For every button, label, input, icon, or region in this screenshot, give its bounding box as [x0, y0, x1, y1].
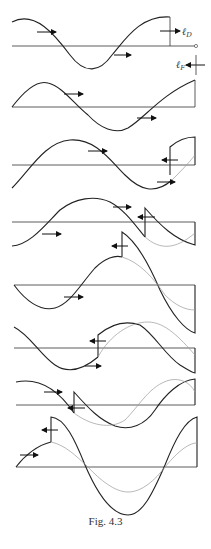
ghost-wave — [122, 257, 195, 310]
figure-caption: Fig. 4.3 — [0, 515, 211, 527]
ghost-wave — [145, 233, 195, 246]
ghost-wave — [98, 322, 195, 357]
reflected-wave — [122, 232, 195, 333]
wave-curve — [12, 80, 195, 131]
wave-curve — [12, 140, 172, 189]
wave-curve — [16, 381, 74, 413]
panel-3 — [12, 137, 195, 189]
panel-5 — [14, 232, 195, 333]
boundary-point — [194, 44, 197, 47]
reflected-wave — [145, 208, 195, 245]
panel-7 — [16, 379, 195, 428]
panel-4 — [12, 198, 195, 246]
incident-field-label: ℓD — [182, 26, 192, 39]
figure-canvas: ℓD ℓF — [0, 0, 211, 549]
panel-1: ℓD — [12, 17, 198, 69]
ghost-wave — [172, 155, 195, 180]
wave-curve — [12, 17, 170, 69]
reflected-field-label: ℓF — [176, 59, 186, 72]
reflected-wave — [51, 417, 197, 515]
panel-8 — [16, 417, 197, 515]
panel-6 — [14, 322, 195, 373]
panel-2: ℓF — [12, 55, 205, 131]
wave-curve — [14, 256, 122, 308]
wave-curve — [14, 327, 98, 370]
reflected-wave — [74, 379, 195, 428]
